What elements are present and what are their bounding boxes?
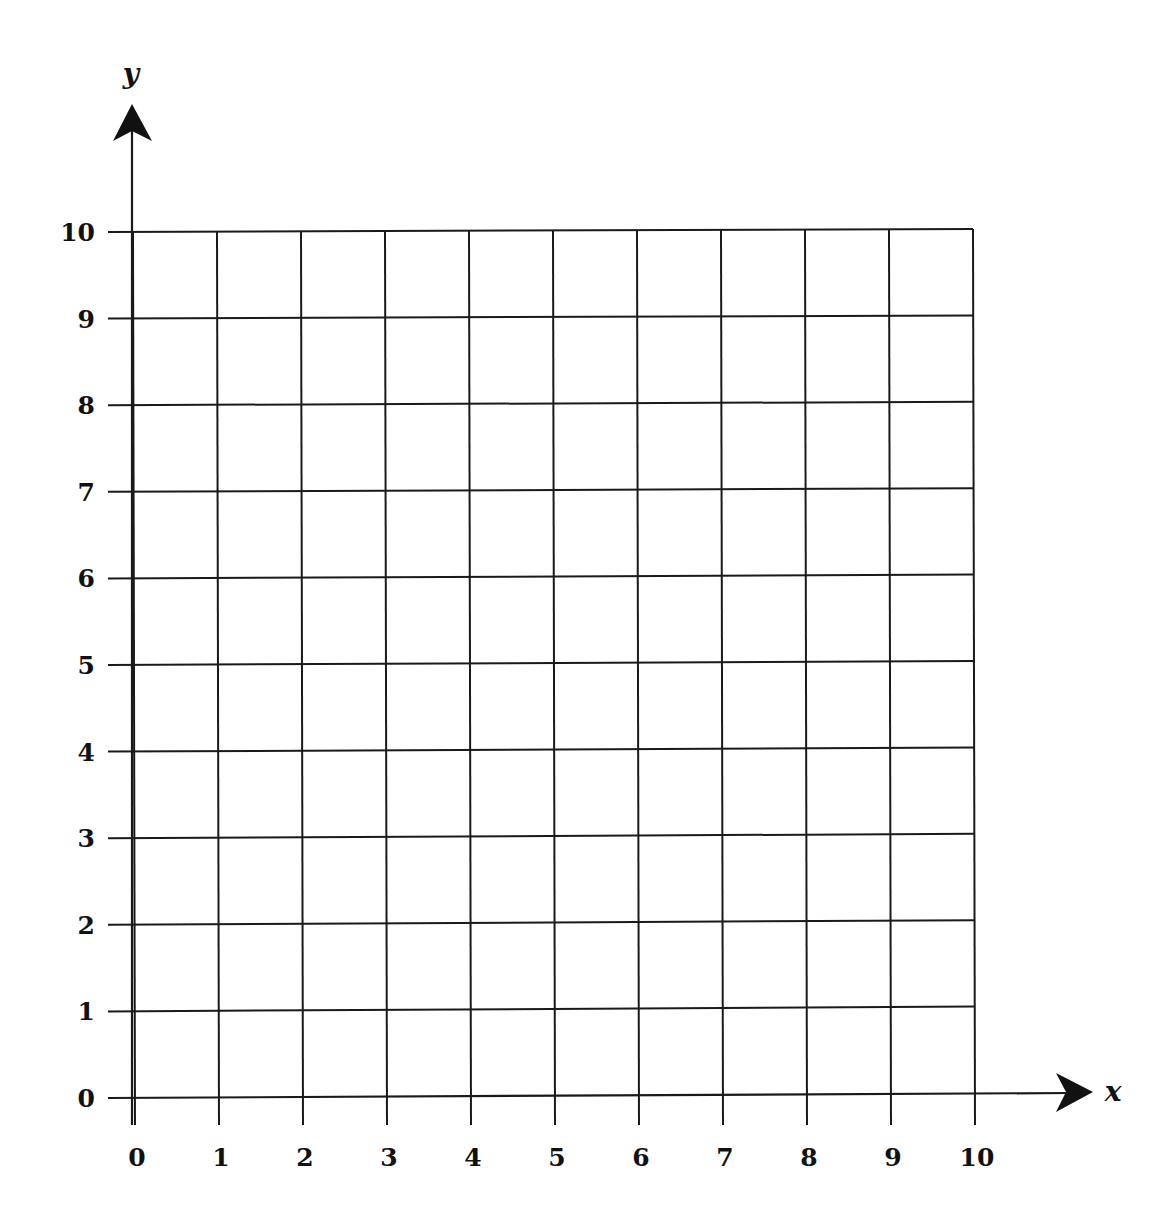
horizontal-grid-line [108, 1007, 975, 1012]
x-axis-line [108, 1093, 1070, 1098]
vertical-grid-line [217, 232, 219, 1125]
horizontal-grid-line [108, 920, 975, 925]
vertical-grid-line [973, 229, 975, 1125]
y-axis-label: y [122, 57, 141, 90]
grid-lines [108, 229, 975, 1125]
x-tick-label: 3 [380, 1143, 397, 1172]
vertical-grid-line [133, 232, 135, 1125]
vertical-grid-line [301, 231, 303, 1125]
chart-canvas: y x 012345678910 012345678910 [0, 0, 1176, 1222]
horizontal-grid-line [108, 229, 973, 232]
vertical-grid-line [721, 230, 723, 1125]
y-tick-label: 9 [78, 305, 95, 334]
vertical-grid-line [889, 229, 891, 1125]
vertical-grid-line [637, 230, 639, 1125]
horizontal-grid-line [108, 402, 973, 405]
horizontal-grid-line [108, 661, 974, 665]
y-tick-label: 0 [78, 1084, 95, 1113]
x-tick-label: 9 [884, 1143, 901, 1172]
y-tick-label: 2 [78, 911, 95, 940]
horizontal-grid-line [108, 488, 974, 492]
y-tick-labels: 012345678910 [60, 218, 95, 1113]
x-tick-label: 10 [960, 1143, 995, 1172]
x-tick-label: 2 [296, 1143, 313, 1172]
y-tick-label: 6 [78, 564, 95, 593]
x-tick-label: 8 [800, 1143, 817, 1172]
horizontal-grid-line [108, 834, 974, 838]
x-tick-label: 7 [716, 1143, 733, 1172]
x-tick-labels: 012345678910 [128, 1143, 994, 1172]
axes: y x [108, 57, 1122, 1125]
vertical-grid-line [553, 231, 555, 1126]
x-tick-label: 6 [632, 1143, 649, 1172]
y-tick-label: 3 [78, 824, 95, 853]
y-tick-label: 7 [78, 478, 95, 507]
x-tick-label: 4 [464, 1143, 481, 1172]
x-axis-label: x [1104, 1075, 1122, 1108]
x-tick-label: 5 [548, 1143, 565, 1172]
horizontal-grid-line [108, 315, 973, 318]
y-tick-label: 5 [78, 651, 95, 680]
vertical-grid-line [805, 230, 807, 1125]
x-tick-label: 0 [128, 1143, 145, 1172]
x-tick-label: 1 [212, 1143, 229, 1172]
vertical-grid-line [469, 231, 471, 1125]
horizontal-grid-line [108, 575, 974, 579]
y-tick-label: 10 [60, 218, 95, 247]
y-tick-label: 4 [78, 738, 95, 767]
coordinate-grid-chart: y x 012345678910 012345678910 [0, 0, 1176, 1222]
y-tick-label: 1 [78, 997, 95, 1026]
horizontal-grid-line [108, 747, 974, 751]
vertical-grid-line [385, 231, 387, 1125]
y-tick-label: 8 [78, 391, 95, 420]
